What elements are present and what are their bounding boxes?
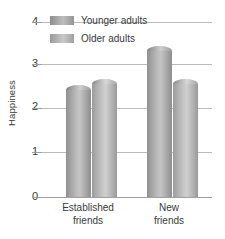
x-category-established-friends: Established friends — [40, 202, 136, 227]
axis-tick-0 — [32, 197, 42, 198]
bar-body — [147, 51, 172, 197]
bar-new-younger — [147, 46, 172, 197]
y-tick-label-2: 2 — [16, 100, 38, 112]
x-category-line-1: New — [131, 202, 207, 215]
chart-legend: Younger adults Older adults — [50, 13, 147, 49]
legend-swatch-icon — [50, 16, 74, 25]
gridline-3 — [41, 64, 212, 65]
axis-tick-2 — [32, 108, 42, 109]
legend-item-older-adults: Older adults — [50, 31, 147, 46]
legend-item-younger-adults: Younger adults — [50, 13, 147, 28]
bar-body — [92, 84, 117, 197]
axis-tick-3 — [32, 64, 42, 65]
y-tick-label-1: 1 — [16, 145, 38, 157]
axis-tick-4 — [32, 22, 42, 23]
axis-tick-1 — [32, 152, 42, 153]
bar-new-older — [173, 79, 198, 197]
y-axis-tick-labels: 4 3 2 1 0 — [14, 0, 38, 239]
legend-swatch-icon — [50, 34, 74, 43]
x-category-new-friends: New friends — [131, 202, 207, 227]
bar-established-younger — [66, 85, 91, 197]
bar-established-older — [92, 79, 117, 197]
bar-body — [66, 90, 91, 197]
gridline-0-baseline — [41, 197, 212, 198]
y-tick-label-3: 3 — [16, 57, 38, 69]
y-tick-label-0: 0 — [16, 190, 38, 202]
x-category-line-1: Established — [40, 202, 136, 215]
x-category-line-2: friends — [131, 215, 207, 228]
bar-body — [173, 84, 198, 197]
y-tick-label-4: 4 — [16, 15, 38, 27]
happiness-bar-chart: Happiness 4 3 2 1 0 — [0, 0, 225, 239]
x-category-line-2: friends — [40, 215, 136, 228]
legend-label-older-adults: Older adults — [81, 33, 135, 44]
legend-label-younger-adults: Younger adults — [81, 15, 147, 26]
